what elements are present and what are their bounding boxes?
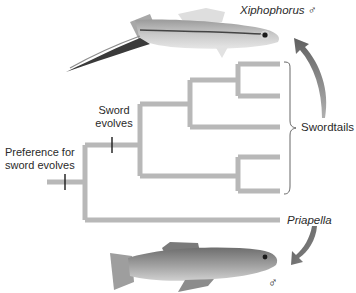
arrow-to-swordtail bbox=[294, 38, 326, 118]
priapella-fish-image bbox=[110, 242, 277, 292]
swordtail-sword bbox=[66, 38, 150, 72]
phylogenetic-tree bbox=[47, 64, 280, 220]
swordtail-eye bbox=[262, 32, 267, 37]
priapella-anal-fin bbox=[178, 279, 214, 292]
priapella-body bbox=[128, 248, 277, 281]
swordtails-bracket bbox=[284, 62, 296, 194]
sword-evolves-label: Sword evolves bbox=[93, 104, 135, 130]
preference-evolves-line-2: sword evolves bbox=[5, 159, 75, 172]
xiphophorus-label: Xiphophorus ♂ bbox=[240, 4, 316, 17]
preference-evolves-label: Preference for sword evolves bbox=[5, 146, 75, 172]
swordtails-label: Swordtails bbox=[301, 121, 354, 134]
priapella-male-symbol: ♂ bbox=[268, 276, 278, 289]
swordtail-pelvic-fin bbox=[215, 46, 228, 58]
sword-evolves-line-2: evolves bbox=[93, 117, 135, 130]
sword-evolves-line-1: Sword bbox=[93, 104, 135, 117]
preference-evolves-line-1: Preference for bbox=[5, 146, 75, 159]
arrow-to-priapella bbox=[291, 226, 317, 265]
priapella-eye bbox=[263, 255, 268, 260]
priapella-label: Priapella bbox=[287, 214, 332, 227]
